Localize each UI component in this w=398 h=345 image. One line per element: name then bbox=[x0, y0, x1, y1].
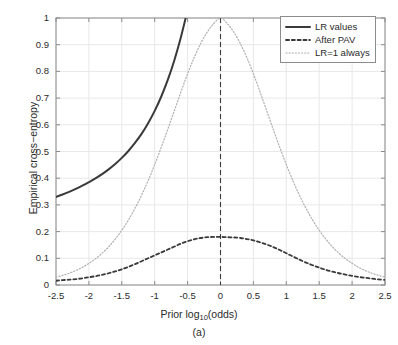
x-tick-label: 2 bbox=[349, 291, 354, 301]
legend-swatch-solid bbox=[285, 22, 311, 32]
chart-legend: LR valuesAfter PAVLR=1 always bbox=[280, 16, 376, 63]
x-tick-label: 1.5 bbox=[313, 291, 326, 301]
legend-item: LR=1 always bbox=[285, 46, 370, 59]
legend-label: After PAV bbox=[315, 35, 355, 45]
y-tick-label: 0.9 bbox=[18, 40, 49, 50]
x-axis-title-subscript: 10 bbox=[200, 313, 208, 322]
y-tick-label: 1 bbox=[18, 13, 49, 23]
x-axis-title: Prior log10(odds) bbox=[0, 308, 398, 322]
y-axis-title: Empirical cross−entropy bbox=[27, 63, 39, 253]
x-tick-label: -1.5 bbox=[114, 291, 130, 301]
x-tick-label: 2.5 bbox=[378, 291, 391, 301]
x-tick-label: 0 bbox=[218, 291, 223, 301]
x-axis-title-prefix: Prior log bbox=[160, 308, 199, 320]
legend-item: LR values bbox=[285, 20, 370, 33]
x-axis-title-suffix: (odds) bbox=[208, 308, 238, 320]
x-tick-label: -2.5 bbox=[48, 291, 64, 301]
x-tick-label: -2 bbox=[85, 291, 93, 301]
x-tick-label: 0.5 bbox=[247, 291, 260, 301]
legend-swatch-dashed bbox=[285, 35, 311, 45]
x-tick-label: -0.5 bbox=[179, 291, 195, 301]
x-tick-label: -1 bbox=[150, 291, 158, 301]
y-tick-label: 0 bbox=[18, 280, 49, 290]
figure-caption: (a) bbox=[0, 326, 398, 338]
legend-swatch-dotted bbox=[285, 48, 311, 58]
y-tick-label: 0.1 bbox=[18, 254, 49, 264]
figure-panel-a: 00.10.20.30.40.50.60.70.80.91 -2.5-2-1.5… bbox=[0, 0, 398, 345]
legend-label: LR values bbox=[315, 22, 357, 32]
x-tick-label: 1 bbox=[284, 291, 289, 301]
legend-label: LR=1 always bbox=[315, 48, 370, 58]
legend-item: After PAV bbox=[285, 33, 370, 46]
